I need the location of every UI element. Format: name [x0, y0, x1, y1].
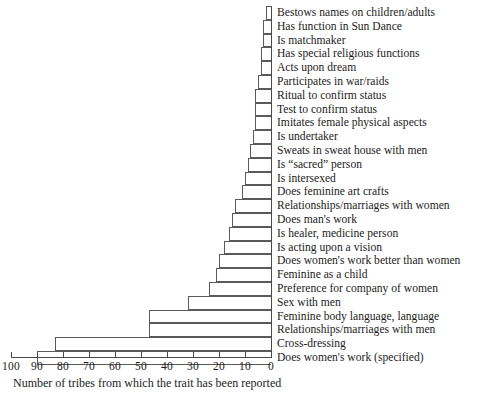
- bar-row: [11, 323, 271, 337]
- bar: [263, 20, 271, 34]
- bar: [248, 158, 271, 172]
- bar-row: [11, 116, 271, 130]
- category-label: Is “sacred” person: [277, 158, 475, 172]
- bar: [250, 144, 271, 158]
- bar: [55, 337, 271, 351]
- bar-row: [11, 158, 271, 172]
- bar-row: [11, 34, 271, 48]
- category-label: Is matchmaker: [277, 34, 475, 48]
- category-label: Is undertaker: [277, 130, 475, 144]
- bar: [255, 103, 271, 117]
- bar-row: [11, 337, 271, 351]
- category-label: Has function in Sun Dance: [277, 20, 475, 34]
- category-label: Does women's work (specified): [277, 351, 475, 365]
- x-axis-tick: [141, 352, 142, 358]
- category-label: Ritual to confirm status: [277, 89, 475, 103]
- category-label: Does feminine art crafts: [277, 185, 475, 199]
- bar-row: [11, 241, 271, 255]
- category-label: Sex with men: [277, 296, 475, 310]
- x-axis-tick: [37, 352, 38, 358]
- category-label: Bestows names on children/adults: [277, 6, 475, 20]
- bar-row: [11, 310, 271, 324]
- category-label: Acts upon dream: [277, 61, 475, 75]
- category-labels: Bestows names on children/adultsHas func…: [277, 6, 475, 351]
- bar-row: [11, 172, 271, 186]
- category-label: Is intersexed: [277, 172, 475, 186]
- bar-row: [11, 75, 271, 89]
- bar-row: [11, 296, 271, 310]
- bar: [229, 227, 271, 241]
- bar-row: [11, 130, 271, 144]
- category-label: Participates in war/raids: [277, 75, 475, 89]
- plot-area: [11, 6, 271, 351]
- x-axis-tick: [193, 352, 194, 358]
- bar-row: [11, 47, 271, 61]
- x-axis-tick: [271, 352, 272, 358]
- bar-row: [11, 20, 271, 34]
- bar-row: [11, 282, 271, 296]
- bar-row: [11, 103, 271, 117]
- bar: [224, 241, 271, 255]
- bar: [263, 34, 271, 48]
- category-label: Has special religious functions: [277, 47, 475, 61]
- bar-row: [11, 213, 271, 227]
- bar: [242, 185, 271, 199]
- bar: [261, 61, 271, 75]
- category-label: Does man's work: [277, 213, 475, 227]
- x-axis-tick: [167, 352, 168, 358]
- bar-chart: 1009080706050403020100 Number of tribes …: [0, 0, 477, 407]
- bar: [219, 254, 271, 268]
- bar: [216, 268, 271, 282]
- category-label: Cross-dressing: [277, 337, 475, 351]
- x-axis-title: Number of tribes from which the trait ha…: [13, 376, 281, 391]
- bar-row: [11, 199, 271, 213]
- x-axis-tick: [115, 352, 116, 358]
- category-label: Does women's work better than women: [277, 254, 475, 268]
- bar: [149, 310, 271, 324]
- category-label: Preference for company of women: [277, 282, 475, 296]
- bar: [209, 282, 271, 296]
- bar: [253, 130, 271, 144]
- bar: [232, 213, 271, 227]
- bar-row: [11, 89, 271, 103]
- x-axis-tick: [89, 352, 90, 358]
- category-label: Test to confirm status: [277, 103, 475, 117]
- bar: [149, 323, 271, 337]
- bar-row: [11, 61, 271, 75]
- bar-row: [11, 144, 271, 158]
- bar: [188, 296, 271, 310]
- x-axis-tick: [245, 352, 246, 358]
- bar-row: [11, 227, 271, 241]
- category-label: Is acting upon a vision: [277, 241, 475, 255]
- bar: [245, 172, 271, 186]
- bar: [258, 75, 271, 89]
- bar-row: [11, 268, 271, 282]
- category-label: Sweats in sweat house with men: [277, 144, 475, 158]
- category-label: Relationships/marriages with men: [277, 323, 475, 337]
- bar-row: [11, 254, 271, 268]
- x-axis-tick: [219, 352, 220, 358]
- bar: [261, 47, 271, 61]
- category-label: Feminine body language, language: [277, 310, 475, 324]
- category-label: Feminine as a child: [277, 268, 475, 282]
- category-label: Imitates female physical aspects: [277, 116, 475, 130]
- category-label: Relationships/marriages with women: [277, 199, 475, 213]
- bar: [255, 89, 271, 103]
- bar: [235, 199, 271, 213]
- x-axis-tick: [11, 352, 12, 358]
- x-axis-tick: [63, 352, 64, 358]
- bar-row: [11, 185, 271, 199]
- bar: [255, 116, 271, 130]
- category-label: Is healer, medicine person: [277, 227, 475, 241]
- zero-axis-line: [271, 6, 272, 358]
- bar-row: [11, 6, 271, 20]
